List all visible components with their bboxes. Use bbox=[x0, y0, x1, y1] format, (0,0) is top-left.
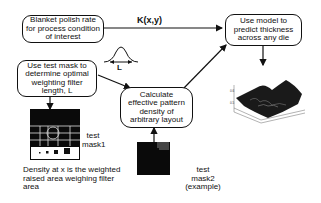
filter-length-label: L bbox=[117, 64, 122, 73]
node-predict-thickness: Use model to predict thickness across an… bbox=[225, 14, 302, 46]
kernel-label: K(x,y) bbox=[137, 15, 162, 25]
node-test-mask: Use test mask to determine optimal weigh… bbox=[17, 60, 97, 97]
test-mask1-label: test mask1 bbox=[82, 132, 104, 149]
svg-text:0.5: 0.5 bbox=[230, 101, 235, 105]
density-caption: Density at x is the weighted raised area… bbox=[23, 166, 131, 192]
arrow-calculate-to-predict bbox=[182, 45, 226, 90]
test-mask1-image bbox=[30, 109, 80, 160]
test-mask2-label: test mask2 (example) bbox=[185, 166, 221, 192]
gaussian-filter-icon bbox=[104, 47, 138, 64]
arrow-mask-to-calculate bbox=[98, 75, 130, 88]
test-mask2-image bbox=[137, 142, 170, 175]
surface-plot-image: 0.6 0.5 bbox=[230, 80, 305, 123]
svg-text:0.6: 0.6 bbox=[230, 89, 235, 93]
node-blanket-polish-rate: Blanket polish rate for process conditio… bbox=[22, 15, 104, 43]
node-calculate-density: Calculate effective pattern density of a… bbox=[120, 87, 193, 128]
